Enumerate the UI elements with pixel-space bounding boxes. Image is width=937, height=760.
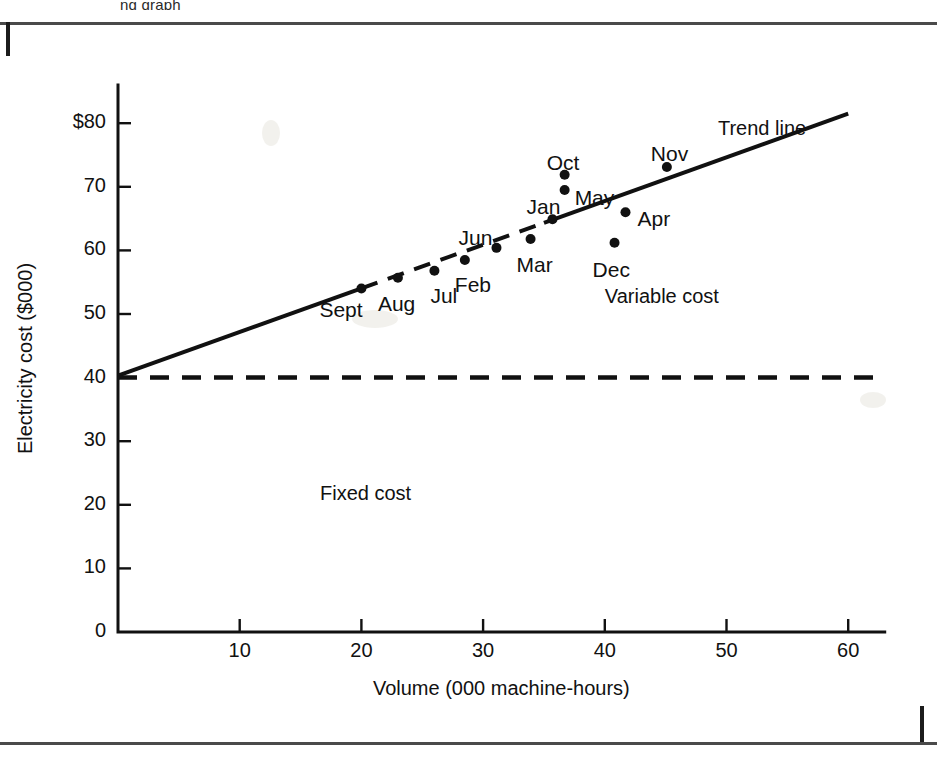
- y-axis-tick-label: 0: [22, 619, 106, 642]
- data-point-label-apr: Apr: [637, 207, 670, 231]
- data-point-jul[interactable]: [429, 266, 439, 276]
- data-point-label-jul: Jul: [430, 284, 457, 308]
- x-axis-tick-label: 40: [565, 639, 645, 662]
- x-axis-tick-label: 30: [443, 639, 523, 662]
- data-point-sept[interactable]: [356, 284, 366, 294]
- data-point-may[interactable]: [560, 185, 570, 195]
- data-point-label-dec: Dec: [593, 258, 630, 282]
- data-point-aug[interactable]: [393, 273, 403, 283]
- data-point-label-sept: Sept: [319, 298, 362, 322]
- data-point-label-oct: Oct: [547, 151, 580, 175]
- data-point-dec[interactable]: [610, 238, 620, 248]
- data-point-label-aug: Aug: [378, 292, 415, 316]
- variable-cost-label: Variable cost: [605, 285, 719, 308]
- data-point-jun[interactable]: [491, 243, 501, 253]
- data-point-label-nov: Nov: [651, 142, 688, 166]
- data-point-label-jun: Jun: [458, 226, 492, 250]
- y-axis-title: Electricity cost ($000): [14, 99, 37, 619]
- data-point-label-may: May: [575, 186, 615, 210]
- x-axis-tick-label: 10: [200, 639, 280, 662]
- x-axis-tick-label: 60: [808, 639, 888, 662]
- chart-plot-area: 010203040506070$80102030405060Volume (00…: [0, 0, 937, 760]
- x-axis-tick-label: 50: [687, 639, 767, 662]
- x-axis-title: Volume (000 machine-hours): [301, 677, 701, 700]
- x-axis-tick-label: 20: [321, 639, 401, 662]
- chart-axes: [118, 85, 885, 632]
- data-point-feb[interactable]: [460, 255, 470, 265]
- data-point-label-jan: Jan: [526, 195, 560, 219]
- data-point-label-feb: Feb: [455, 273, 491, 297]
- data-point-mar[interactable]: [526, 234, 536, 244]
- data-point-apr[interactable]: [620, 207, 630, 217]
- trend-line-label: Trend line: [718, 117, 806, 140]
- fixed-cost-label: Fixed cost: [320, 482, 411, 505]
- scattergraph-page: ng graph 010203040506070$80102030405060V…: [0, 0, 937, 760]
- data-point-label-mar: Mar: [517, 253, 553, 277]
